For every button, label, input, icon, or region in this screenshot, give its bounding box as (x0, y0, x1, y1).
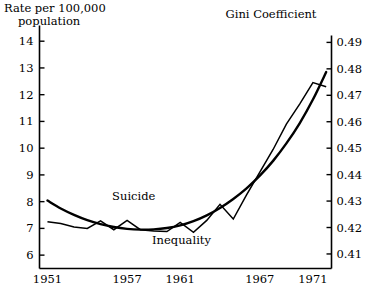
left-tick-label: 14 (19, 34, 34, 48)
left-tick-label: 6 (26, 248, 33, 262)
left-tick-label: 12 (19, 88, 34, 102)
gini-suicide-line-chart: Rate per 100,000 population Gini Coeffic… (0, 0, 374, 294)
left-axis-title-line1: Rate per 100,000 (4, 1, 106, 15)
right-tick-label: 0.48 (337, 62, 363, 76)
left-tick-label: 10 (19, 141, 34, 155)
right-tick-label: 0.47 (337, 88, 363, 102)
right-tick-label: 0.44 (337, 168, 363, 182)
right-tick-label: 0.43 (337, 194, 363, 208)
series-line-suicide (47, 83, 326, 233)
series-annotation-inequality: Inequality (152, 233, 211, 247)
series-annotation-suicide: Suicide (112, 189, 155, 203)
right-tick-label: 0.46 (337, 115, 363, 129)
x-tick-label: 1957 (112, 272, 141, 286)
left-tick-label: 8 (26, 195, 33, 209)
left-tick-label: 13 (19, 61, 34, 75)
x-tick-label: 1967 (245, 272, 274, 286)
right-tick-label: 0.41 (337, 247, 363, 261)
chart-container: Rate per 100,000 population Gini Coeffic… (0, 0, 374, 294)
right-axis-title: Gini Coefficient (226, 7, 317, 21)
x-axis-tick-labels: 19511957196119671971 (33, 272, 328, 286)
right-tick-label: 0.42 (337, 221, 363, 235)
x-tick-label: 1961 (166, 272, 195, 286)
left-tick-label: 7 (26, 221, 33, 235)
x-tick-label: 1951 (33, 272, 62, 286)
left-axis-ticks: 14131211109876 (19, 34, 45, 262)
series-line-inequality (47, 72, 326, 230)
left-axis-title-line2: population (18, 14, 81, 28)
left-tick-label: 11 (19, 114, 34, 128)
left-tick-label: 9 (26, 168, 33, 182)
right-tick-label: 0.49 (337, 35, 363, 49)
right-tick-label: 0.45 (337, 141, 363, 155)
x-tick-label: 1971 (298, 272, 327, 286)
